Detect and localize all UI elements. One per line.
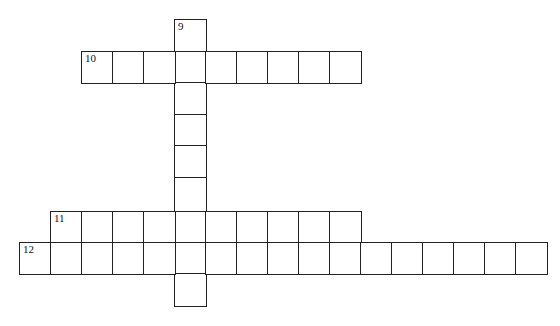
crossword-cell[interactable]: 11 <box>50 211 83 244</box>
crossword-cell[interactable] <box>453 242 486 275</box>
crossword-cell[interactable] <box>515 242 548 275</box>
crossword-cell[interactable] <box>143 211 176 244</box>
crossword-cell[interactable] <box>205 242 238 275</box>
crossword-cell[interactable] <box>81 211 114 244</box>
crossword-cell[interactable] <box>329 51 362 84</box>
crossword-cell[interactable] <box>329 211 362 244</box>
clue-number: 11 <box>54 213 65 224</box>
crossword-cell[interactable] <box>81 242 114 275</box>
crossword-cell[interactable] <box>174 211 207 244</box>
crossword-cell[interactable] <box>112 51 145 84</box>
crossword-cell[interactable] <box>174 177 207 213</box>
crossword-cell[interactable] <box>143 51 176 84</box>
clue-number: 12 <box>23 244 34 255</box>
crossword-cell[interactable]: 12 <box>19 242 52 275</box>
crossword-cell[interactable] <box>267 211 300 244</box>
crossword-cell[interactable] <box>174 114 207 147</box>
crossword-cell[interactable] <box>236 211 269 244</box>
clue-number: 10 <box>85 53 96 64</box>
crossword-cell[interactable] <box>112 242 145 275</box>
crossword-cell[interactable] <box>236 242 269 275</box>
crossword-cell[interactable] <box>205 51 238 84</box>
crossword-cell[interactable] <box>205 211 238 244</box>
crossword-cell[interactable] <box>484 242 517 275</box>
crossword-cell[interactable] <box>298 51 331 84</box>
crossword-cell[interactable] <box>174 51 207 84</box>
crossword-cell[interactable] <box>174 273 207 307</box>
crossword-cell[interactable] <box>112 211 145 244</box>
clue-number: 9 <box>178 21 184 32</box>
crossword-cell[interactable] <box>422 242 455 275</box>
crossword-cell[interactable] <box>267 51 300 84</box>
crossword-cell[interactable] <box>174 242 207 275</box>
crossword-cell[interactable] <box>50 242 83 275</box>
crossword-cell[interactable] <box>360 242 393 275</box>
crossword-cell[interactable] <box>143 242 176 275</box>
crossword-cell[interactable] <box>329 242 362 275</box>
crossword-grid: 9101112 <box>0 0 560 326</box>
crossword-cell[interactable] <box>391 242 424 275</box>
crossword-cell[interactable]: 10 <box>81 51 114 84</box>
crossword-cell[interactable] <box>298 211 331 244</box>
crossword-cell[interactable] <box>174 82 207 116</box>
crossword-cell[interactable]: 9 <box>174 19 207 53</box>
crossword-cell[interactable] <box>298 242 331 275</box>
crossword-cell[interactable] <box>174 145 207 179</box>
crossword-cell[interactable] <box>236 51 269 84</box>
crossword-cell[interactable] <box>267 242 300 275</box>
